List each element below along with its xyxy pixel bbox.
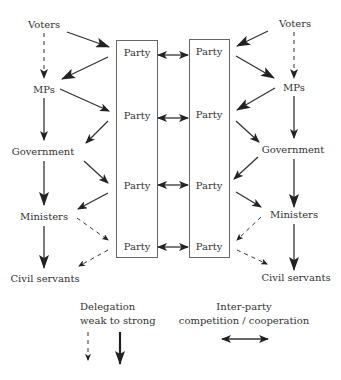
right-party-box: Party Party Party Party: [190, 40, 230, 258]
delegation-arrow-icon: [84, 161, 108, 183]
right-party-label-4: Party: [196, 241, 223, 252]
left-party-label-4: Party: [124, 241, 151, 252]
delegation-chain-diagram: Party Party Party Party Party Party Part…: [0, 0, 341, 380]
left-party-label-1: Party: [124, 47, 151, 58]
delegation-arrow-icon: [234, 157, 258, 179]
delegation-arrow-icon: [86, 121, 108, 143]
delegation-arrow-icon: [236, 192, 261, 207]
left-government-label: Government: [12, 146, 75, 157]
legend-interparty: Inter-party competition / cooperation: [179, 301, 310, 339]
delegation-arrow-icon: [237, 31, 268, 46]
right-voters-label: Voters: [278, 18, 311, 29]
right-ministers-label: Ministers: [270, 209, 318, 220]
right-party-label-1: Party: [196, 46, 223, 57]
legend-interparty-title: Inter-party: [216, 301, 272, 312]
interparty-arrows: [158, 55, 188, 247]
delegation-arrow-icon: [236, 56, 274, 78]
left-voters-label: Voters: [27, 19, 60, 30]
weak-delegation-arrow-icon: [79, 250, 108, 266]
legend-delegation-title: Delegation: [80, 301, 136, 312]
weak-delegation-arrow-icon: [237, 250, 267, 264]
delegation-arrow-icon: [67, 32, 109, 47]
legend-interparty-subtitle: competition / cooperation: [179, 315, 310, 326]
right-mps-label: MPs: [283, 82, 305, 93]
delegation-arrow-icon: [236, 121, 259, 142]
weak-delegation-arrow-icon: [237, 217, 261, 240]
legend-delegation: Delegation weak to strong: [80, 301, 156, 364]
delegation-arrow-icon: [62, 57, 108, 79]
delegation-arrow-icon: [78, 193, 108, 209]
right-civil-servants-label: Civil servants: [261, 272, 330, 283]
left-mps-label: MPs: [33, 84, 55, 95]
delegation-arrow-icon: [60, 89, 109, 111]
left-civil-servants-label: Civil servants: [10, 273, 79, 284]
right-party-label-3: Party: [196, 180, 223, 191]
right-party-label-2: Party: [196, 109, 223, 120]
weak-delegation-arrow-icon: [77, 218, 108, 240]
left-party-label-2: Party: [124, 110, 151, 121]
right-chain: Voters MPs Government Ministers Civil se…: [234, 18, 331, 283]
left-party-box: Party Party Party Party: [117, 41, 158, 258]
left-ministers-label: Ministers: [20, 211, 68, 222]
right-government-label: Government: [262, 144, 325, 155]
legend: Delegation weak to strong Inter-party co…: [80, 301, 310, 364]
delegation-arrow-icon: [237, 88, 275, 110]
legend-delegation-subtitle: weak to strong: [80, 315, 156, 326]
left-chain: Voters MPs Government Ministers Civil se…: [10, 19, 109, 284]
left-party-label-3: Party: [124, 180, 151, 191]
